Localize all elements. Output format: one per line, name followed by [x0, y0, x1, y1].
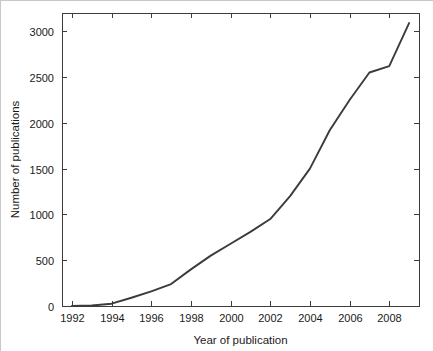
x-axis-tick-labels: 199219941996199820002002200420062008: [60, 312, 401, 324]
line-chart: 199219941996199820002002200420062008 050…: [1, 1, 433, 351]
x-tick-label: 1996: [139, 312, 163, 324]
y-tick-label: 2000: [30, 118, 54, 130]
plot-background: [62, 13, 419, 306]
y-tick-label: 3000: [30, 26, 54, 38]
x-tick-label: 2004: [298, 312, 322, 324]
x-tick-label: 2002: [258, 312, 282, 324]
x-tick-label: 2000: [219, 312, 243, 324]
y-tick-label: 1000: [30, 209, 54, 221]
x-tick-label: 1994: [100, 312, 124, 324]
x-tick-label: 1998: [179, 312, 203, 324]
x-tick-label: 2008: [377, 312, 401, 324]
x-tick-label: 1992: [60, 312, 84, 324]
y-axis-title: Number of publications: [9, 100, 21, 218]
y-tick-label: 0: [48, 301, 54, 313]
x-axis-title: Year of publication: [193, 334, 287, 346]
x-tick-label: 2006: [338, 312, 362, 324]
y-tick-label: 500: [36, 255, 54, 267]
y-tick-label: 1500: [30, 164, 54, 176]
y-tick-label: 2500: [30, 72, 54, 84]
figure-container: 199219941996199820002002200420062008 050…: [0, 0, 433, 351]
